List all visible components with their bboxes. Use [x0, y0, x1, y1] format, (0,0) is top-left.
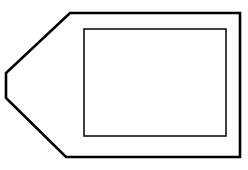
- figure-canvas: line-drawing-hexagonal-tag-with-inner-re…: [0, 0, 248, 170]
